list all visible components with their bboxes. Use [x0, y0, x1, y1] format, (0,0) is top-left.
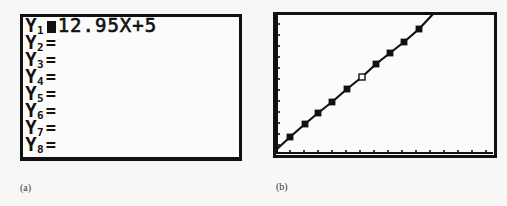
function-line: [277, 13, 434, 149]
data-point-marker: [387, 50, 393, 56]
data-point-marker: [302, 121, 308, 127]
data-point-marker: [401, 39, 407, 45]
data-point-marker: [287, 134, 293, 140]
graph-plot: [0, 0, 507, 206]
data-point-marker: [329, 99, 335, 105]
data-point-marker: [373, 61, 379, 67]
data-point-marker: [416, 26, 422, 32]
data-point-marker: [344, 86, 350, 92]
open-data-point-marker: [359, 74, 365, 80]
data-point-marker: [315, 110, 321, 116]
